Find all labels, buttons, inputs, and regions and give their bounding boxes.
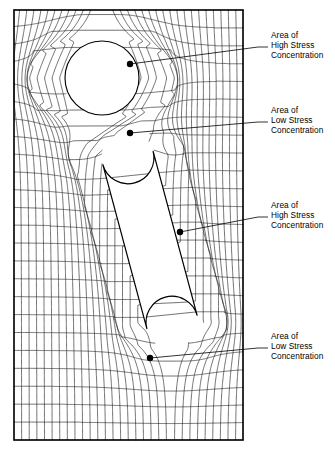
- annotation-label-line: Area of: [271, 105, 299, 115]
- cross-line: [136, 81, 243, 94]
- stress-point-marker: [147, 355, 153, 361]
- cross-line: [14, 294, 243, 300]
- annotation-label: Area ofLow StressConcentration: [271, 105, 324, 135]
- cross-line: [14, 333, 155, 344]
- stress-point-marker: [177, 229, 183, 235]
- annotation-label: Area ofHigh StressConcentration: [271, 30, 324, 60]
- cross-line: [14, 422, 243, 423]
- annotation-label-line: Concentration: [271, 50, 324, 60]
- annotation-label-line: Area of: [271, 30, 299, 40]
- annotation-label-line: Area of: [271, 200, 299, 210]
- stress-point-marker: [127, 130, 133, 136]
- stress-flow-diagram: Area ofHigh StressConcentrationArea ofLo…: [0, 0, 335, 458]
- cross-line: [14, 404, 243, 407]
- annotation-label-line: Concentration: [271, 220, 324, 230]
- annotation-label: Area ofLow StressConcentration: [271, 331, 324, 361]
- leader-line: [150, 348, 258, 358]
- annotation-label: Area ofHigh StressConcentration: [271, 200, 324, 230]
- annotation-label-line: Low Stress: [271, 341, 313, 351]
- annotation-label-line: High Stress: [271, 40, 314, 50]
- annotation-label-line: Concentration: [271, 351, 324, 361]
- annotation-label-line: Area of: [271, 331, 299, 341]
- annotation-label-line: Low Stress: [271, 115, 313, 125]
- cross-line: [14, 135, 114, 142]
- annotation-label-line: High Stress: [271, 210, 314, 220]
- streamline: [228, 10, 236, 440]
- annotation-label-line: Concentration: [271, 125, 324, 135]
- cross-line: [14, 30, 243, 46]
- leader-line: [130, 47, 258, 64]
- cross-line: [14, 386, 243, 391]
- cross-line: [14, 312, 243, 318]
- leader-line: [130, 122, 258, 133]
- circular-hole: [65, 41, 139, 115]
- stress-point-marker: [127, 61, 133, 67]
- leader-line: [180, 217, 258, 232]
- streamline: [236, 10, 242, 440]
- cross-line: [14, 276, 243, 282]
- stress-flow-figure: Area ofHigh StressConcentrationArea ofLo…: [0, 0, 335, 458]
- cross-line: [14, 368, 243, 376]
